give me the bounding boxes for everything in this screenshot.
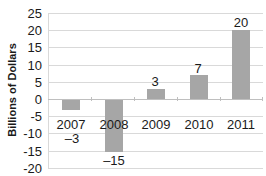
data-label: 20 xyxy=(226,16,256,29)
gridline xyxy=(48,13,263,14)
gridline xyxy=(48,168,263,169)
x-tick-mark xyxy=(177,97,178,101)
x-tick-mark xyxy=(262,97,263,101)
y-tick: -5 xyxy=(20,110,42,123)
x-tick-mark xyxy=(134,97,135,101)
gridline xyxy=(48,65,263,66)
gridline xyxy=(48,47,263,48)
y-tick: 15 xyxy=(20,41,42,54)
bar-2009 xyxy=(147,89,165,99)
y-tick: 0 xyxy=(20,93,42,106)
data-label: –15 xyxy=(99,154,129,167)
y-tick: -15 xyxy=(20,145,42,158)
x-category-label: 2010 xyxy=(179,118,219,131)
y-axis-line xyxy=(48,13,49,168)
y-axis-label: Billions of Dollars xyxy=(6,43,18,137)
gridline xyxy=(48,30,263,31)
x-category-label: 2008 xyxy=(94,118,134,131)
data-label: 3 xyxy=(140,75,170,88)
x-tick-mark xyxy=(220,97,221,101)
x-category-label: 2007 xyxy=(51,118,91,131)
zero-line xyxy=(48,99,263,100)
data-label: 7 xyxy=(183,62,213,75)
x-category-label: 2009 xyxy=(136,118,176,131)
bar-2010 xyxy=(190,75,208,99)
y-tick: -20 xyxy=(20,162,42,175)
x-tick-mark xyxy=(91,97,92,101)
y-tick: 20 xyxy=(20,24,42,37)
y-tick: 10 xyxy=(20,59,42,72)
bar-2011 xyxy=(232,30,250,99)
y-tick: 25 xyxy=(20,7,42,20)
gridline xyxy=(48,151,263,152)
y-tick: -10 xyxy=(20,127,42,140)
bar-2007 xyxy=(62,100,80,110)
y-tick: 5 xyxy=(20,76,42,89)
x-category-label: 2011 xyxy=(221,118,261,131)
data-label: –3 xyxy=(57,132,87,145)
